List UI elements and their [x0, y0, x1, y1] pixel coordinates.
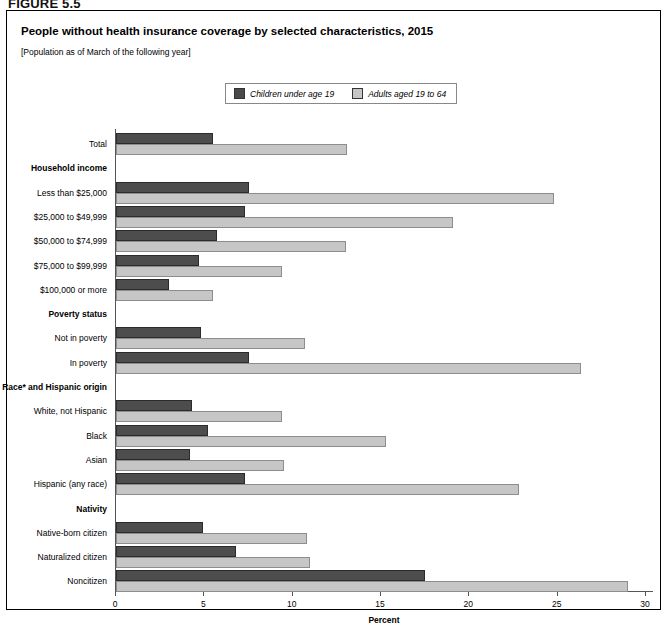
- bar-adults: [116, 338, 305, 349]
- legend-label-children: Children under age 19: [250, 89, 334, 99]
- bar-adults: [116, 217, 453, 228]
- category-label: Native-born citizen: [37, 528, 107, 538]
- bar-children: [116, 206, 245, 217]
- category-label: Black: [86, 431, 107, 441]
- category-label: Asian: [86, 455, 107, 465]
- page-title: People without health insurance coverage…: [21, 25, 433, 37]
- bar-children: [116, 522, 203, 533]
- bar-adults: [116, 436, 386, 447]
- x-tick-label: 25: [537, 599, 577, 609]
- bar-children: [116, 279, 169, 290]
- bar-adults: [116, 363, 581, 374]
- category-label: $100,000 or more: [40, 285, 107, 295]
- bar-adults: [116, 193, 554, 204]
- category-label: Hispanic (any race): [34, 479, 107, 489]
- bar-adults: [116, 557, 310, 568]
- bar-adults: [116, 460, 284, 471]
- bar-children: [116, 352, 249, 363]
- x-tick: [645, 591, 646, 596]
- bar-adults: [116, 144, 347, 155]
- legend-label-adults: Adults aged 19 to 64: [368, 89, 446, 99]
- bar-children: [116, 546, 236, 557]
- bar-adults: [116, 581, 628, 592]
- x-tick-label: 30: [625, 599, 665, 609]
- x-tick-label: 5: [183, 599, 223, 609]
- category-label: $25,000 to $49,999: [34, 212, 107, 222]
- x-tick-label: 10: [272, 599, 312, 609]
- bar-adults: [116, 484, 519, 495]
- category-group-header: Household income: [31, 163, 107, 173]
- bar-children: [116, 255, 199, 266]
- category-group-header: Poverty status: [48, 309, 107, 319]
- category-label: Not in poverty: [55, 333, 107, 343]
- category-label: $50,000 to $74,999: [34, 236, 107, 246]
- x-tick-label: 20: [448, 599, 488, 609]
- category-label: Total: [89, 139, 107, 149]
- bar-children: [116, 327, 201, 338]
- bar-adults: [116, 533, 307, 544]
- bar-adults: [116, 411, 282, 422]
- bar-children: [116, 449, 190, 460]
- category-group-header: Nativity: [76, 504, 107, 514]
- bar-adults: [116, 266, 282, 277]
- light-swatch-icon: [352, 88, 363, 99]
- bar-children: [116, 570, 425, 581]
- bar-children: [116, 473, 245, 484]
- category-label: Noncitizen: [67, 576, 107, 586]
- x-tick-label: 0: [95, 599, 135, 609]
- category-label: $75,000 to $99,999: [34, 261, 107, 271]
- bar-children: [116, 133, 213, 144]
- bar-children: [116, 400, 192, 411]
- page-subtitle: [Population as of March of the following…: [21, 47, 191, 57]
- legend-item-adults: Adults aged 19 to 64: [352, 88, 446, 99]
- legend-item-children: Children under age 19: [234, 88, 334, 99]
- figure-panel: People without health insurance coverage…: [6, 10, 661, 610]
- category-group-header: Race* and Hispanic origin: [2, 382, 107, 392]
- x-tick-label: 15: [360, 599, 400, 609]
- category-label: In poverty: [70, 358, 107, 368]
- bar-children: [116, 182, 249, 193]
- category-axis-labels: TotalHousehold incomeLess than $25,000$2…: [7, 129, 111, 591]
- category-label: Less than $25,000: [37, 188, 107, 198]
- bar-children: [116, 230, 217, 241]
- bar-adults: [116, 290, 213, 301]
- x-axis-title: Percent: [115, 615, 653, 625]
- chart-legend: Children under age 19 Adults aged 19 to …: [225, 83, 457, 104]
- category-label: White, not Hispanic: [34, 406, 107, 416]
- bar-children: [116, 425, 208, 436]
- chart-plot-area: 051015202530 Percent: [115, 129, 653, 591]
- category-label: Naturalized citizen: [38, 552, 107, 562]
- bar-adults: [116, 241, 346, 252]
- dark-swatch-icon: [234, 88, 245, 99]
